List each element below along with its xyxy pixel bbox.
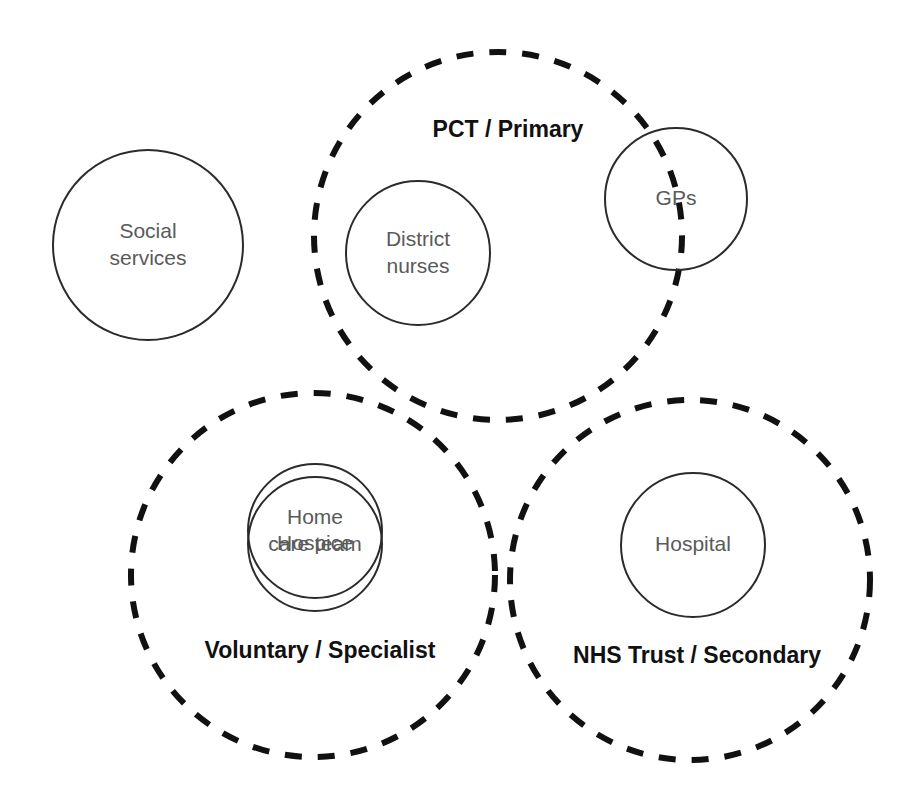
group-boundary-voluntary-specialist — [131, 393, 495, 757]
label-hospital: Hospital — [655, 532, 731, 555]
label-line: Home — [287, 504, 343, 527]
label-line: Hospice — [277, 531, 353, 554]
group-boundary-pct-primary — [314, 52, 682, 420]
label-line: services — [109, 245, 186, 268]
label-social-services: Socialservices — [109, 218, 186, 268]
label-line: Social — [119, 218, 176, 241]
group-label-pct-primary: PCT / Primary — [433, 116, 584, 142]
diagram-canvas: Socialservices Districtnurses GPs Homeca… — [0, 0, 908, 797]
label-line: nurses — [386, 253, 449, 276]
label-line: District — [386, 226, 450, 249]
label-line: GPs — [656, 186, 697, 209]
label-hospice: Hospice — [277, 531, 353, 554]
label-gps: GPs — [656, 186, 697, 209]
label-line: Hospital — [655, 532, 731, 555]
care-network-diagram: Socialservices Districtnurses GPs Homeca… — [0, 0, 908, 797]
label-district-nurses: Districtnurses — [386, 226, 450, 276]
group-label-voluntary-specialist: Voluntary / Specialist — [205, 637, 436, 663]
group-label-nhs-trust-secondary: NHS Trust / Secondary — [573, 642, 821, 668]
group-boundary-nhs-trust-secondary — [510, 400, 870, 760]
